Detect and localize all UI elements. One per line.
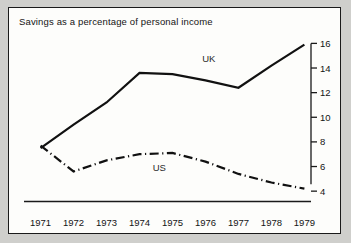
- x-tick-label: 1971: [30, 217, 51, 228]
- y-tick-label: 4: [320, 186, 325, 197]
- x-tick-label: 1975: [162, 217, 183, 228]
- x-tick-label: 1978: [261, 217, 282, 228]
- x-tick-label: 1976: [195, 217, 216, 228]
- series-line-uk: [41, 45, 305, 148]
- x-tick-label: 1973: [96, 217, 117, 228]
- chart-frame: Savings as a percentage of personal inco…: [8, 7, 341, 234]
- plot-area: 197119721973197419751976197719781979 468…: [9, 8, 342, 235]
- chart-svg: 197119721973197419751976197719781979 468…: [9, 8, 342, 235]
- x-tick-label: 1979: [294, 217, 315, 228]
- series-label-uk: UK: [202, 53, 216, 64]
- y-tick-label: 8: [320, 136, 325, 147]
- y-tick-label: 6: [320, 161, 325, 172]
- y-tick-labels: 46810121416: [320, 38, 331, 197]
- y-tick-label: 14: [320, 63, 331, 74]
- y-tick-label: 10: [320, 112, 331, 123]
- x-tick-label: 1972: [63, 217, 84, 228]
- x-tick-label: 1974: [129, 217, 150, 228]
- x-tick-labels: 197119721973197419751976197719781979: [30, 217, 315, 228]
- series-group: [41, 45, 305, 189]
- y-tick-label: 12: [320, 87, 331, 98]
- chart-figure: Savings as a percentage of personal inco…: [0, 0, 351, 243]
- series-line-us: [41, 146, 305, 189]
- series-label-us: US: [153, 162, 166, 173]
- y-tick-label: 16: [320, 38, 331, 49]
- x-tick-label: 1977: [228, 217, 249, 228]
- axis-group: [24, 43, 317, 201]
